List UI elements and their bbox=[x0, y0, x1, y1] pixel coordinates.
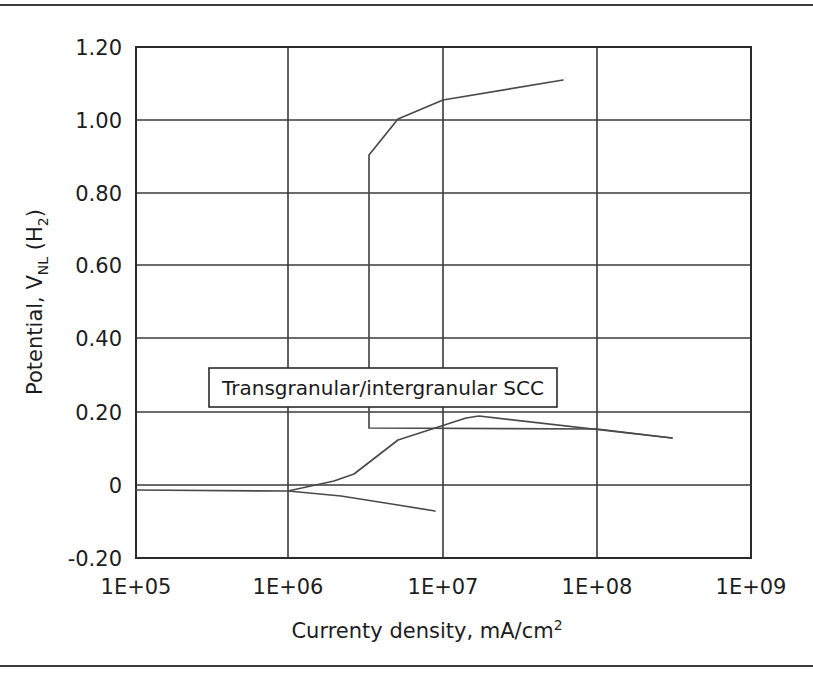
ytick-label--0.20: -0.20 bbox=[68, 547, 122, 571]
xtick-label-1E+06: 1E+06 bbox=[253, 575, 324, 599]
ytick-label-0.40: 0.40 bbox=[75, 327, 122, 351]
ytick-label-1.20: 1.20 bbox=[75, 36, 122, 60]
ytick-label-0.80: 0.80 bbox=[75, 182, 122, 206]
ytick-label-1.00: 1.00 bbox=[75, 109, 122, 133]
annotation-transgranular-scc: Transgranular/intergranular SCC bbox=[209, 368, 557, 407]
y-axis-title-tail-subscript: 2 bbox=[35, 217, 51, 226]
x-axis-title-main: Currenty density, mA/cm bbox=[291, 619, 553, 643]
y-axis-title-subscript: NL bbox=[35, 257, 51, 275]
xtick-label-1E+07: 1E+07 bbox=[408, 575, 479, 599]
figure-page: Transgranular/intergranular SCC 1.20 1.0… bbox=[0, 0, 813, 680]
y-axis-title-tail: (H bbox=[23, 226, 47, 257]
x-axis-title-superscript: 2 bbox=[554, 617, 563, 633]
xtick-label-1E+08: 1E+08 bbox=[562, 575, 633, 599]
x-tick-labels: 1E+05 1E+06 1E+07 1E+08 1E+09 bbox=[101, 575, 787, 599]
annotation-label: Transgranular/intergranular SCC bbox=[221, 376, 544, 400]
chart-svg: Transgranular/intergranular SCC 1.20 1.0… bbox=[0, 10, 813, 658]
ytick-label-0.20: 0.20 bbox=[75, 401, 122, 425]
ytick-label-0: 0 bbox=[109, 474, 122, 498]
chart-figure: Transgranular/intergranular SCC 1.20 1.0… bbox=[0, 10, 813, 658]
y-axis-title-main: Potential, V bbox=[23, 275, 47, 395]
ytick-label-0.60: 0.60 bbox=[75, 254, 122, 278]
xtick-label-1E+05: 1E+05 bbox=[101, 575, 172, 599]
y-tick-labels: 1.20 1.00 0.80 0.60 0.40 0.20 0 -0.20 bbox=[68, 36, 122, 571]
page-rule-top bbox=[0, 4, 813, 6]
x-axis-title: Currenty density, mA/cm2 bbox=[291, 617, 562, 643]
xtick-label-1E+09: 1E+09 bbox=[716, 575, 787, 599]
page-rule-bottom bbox=[0, 665, 813, 667]
y-axis-title: Potential, VNL (H2) bbox=[23, 209, 51, 395]
y-axis-title-tail-close: ) bbox=[23, 209, 47, 217]
